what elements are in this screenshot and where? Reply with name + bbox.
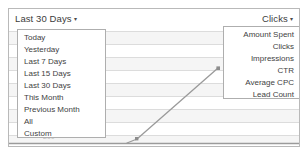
date-range-option-last-15-days[interactable]: Last 15 Days <box>18 68 105 80</box>
date-range-option-today[interactable]: Today <box>18 32 105 44</box>
metric-option-amount-spent[interactable]: Amount Spent <box>224 29 300 41</box>
date-range-selector-label: Last 30 Days <box>15 13 72 24</box>
date-range-dropdown-menu[interactable]: Today Yesterday Last 7 Days Last 15 Days… <box>17 29 106 138</box>
date-range-selector[interactable]: Last 30 Days▾ <box>15 13 77 25</box>
date-range-option-custom[interactable]: Custom <box>18 128 105 140</box>
date-range-option-this-month[interactable]: This Month <box>18 92 105 104</box>
date-range-option-yesterday[interactable]: Yesterday <box>18 44 105 56</box>
metric-selector[interactable]: Clicks▾ <box>262 13 293 25</box>
date-range-option-last-30-days[interactable]: Last 30 Days <box>18 80 105 92</box>
date-range-option-previous-month[interactable]: Previous Month <box>18 104 105 116</box>
chart-panel: 200 Last 30 Days▾ Clicks▾ Today Yesterda… <box>8 8 300 147</box>
metric-option-lead-count[interactable]: Lead Count <box>224 89 300 101</box>
metric-option-ctr[interactable]: CTR <box>224 65 300 77</box>
date-range-option-last-7-days[interactable]: Last 7 Days <box>18 56 105 68</box>
chart-series-line <box>127 68 218 143</box>
metric-option-impressions[interactable]: Impressions <box>224 53 300 65</box>
metric-dropdown-menu[interactable]: Amount Spent Clicks Impressions CTR Aver… <box>223 26 300 99</box>
chevron-down-icon: ▾ <box>74 16 77 22</box>
metric-option-average-cpc[interactable]: Average CPC <box>224 77 300 89</box>
metric-selector-label: Clicks <box>262 13 288 24</box>
metric-option-clicks[interactable]: Clicks <box>224 41 300 53</box>
chevron-down-icon: ▾ <box>290 16 293 22</box>
date-range-option-all[interactable]: All <box>18 116 105 128</box>
